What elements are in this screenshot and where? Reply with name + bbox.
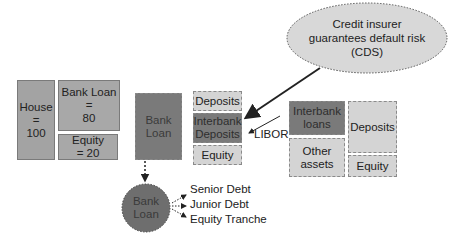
tranche-arrow-senior [172,195,186,203]
other-bank-equity-box: Equity [348,155,397,177]
bank-loan-circle-label: Bank Loan [124,193,168,223]
tranche-equity: Equity Tranche [190,213,267,225]
libor-label: LIBOR [254,128,289,140]
interbank-loans-box: Interbank loans [289,101,345,135]
cds-callout-text: Credit insurer guarantees default risk (… [300,14,434,62]
bank-loan-liability-box: Bank Loan = 80 [58,80,120,131]
bank-loan-asset-box: Bank Loan [135,93,182,160]
equity-box: Equity = 20 [58,134,118,160]
other-bank-deposits-box: Deposits [348,101,397,153]
tranche-junior-debt: Junior Debt [190,198,249,210]
tranche-arrow-equity [172,209,186,217]
house-box: House = 100 [17,80,55,160]
bank-deposits-box: Deposits [193,91,242,111]
other-assets-box: Other assets [289,138,345,177]
tranche-senior-debt: Senior Debt [190,183,251,195]
bank-equity-box: Equity [193,145,242,165]
interbank-deposits-box: Interbank Deposits [193,113,242,143]
